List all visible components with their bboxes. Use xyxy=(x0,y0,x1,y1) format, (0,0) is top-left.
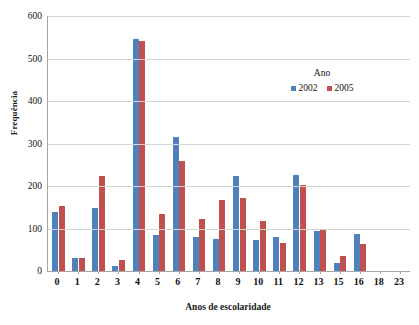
gridline xyxy=(48,59,410,60)
x-tick-mark xyxy=(159,271,160,274)
y-tick-label: 0 xyxy=(16,266,42,276)
x-tick-mark xyxy=(299,271,300,274)
bar-2005-5 xyxy=(159,214,165,271)
x-tick-mark xyxy=(380,271,381,274)
x-tick-label: 23 xyxy=(387,276,411,287)
x-tick-mark xyxy=(219,271,220,274)
bar-2002-9 xyxy=(233,176,239,271)
gridline xyxy=(48,101,410,102)
y-tick-label: 200 xyxy=(16,181,42,191)
legend-item-2005: 2005 xyxy=(327,83,354,93)
x-tick-mark xyxy=(139,271,140,274)
bar-2005-3 xyxy=(119,260,125,271)
bar-2002-2 xyxy=(92,208,98,271)
gridline xyxy=(48,144,410,145)
y-tick-label: 400 xyxy=(16,96,42,106)
legend: Ano 20022005 xyxy=(266,68,378,93)
x-tick-mark xyxy=(199,271,200,274)
bar-2005-0 xyxy=(59,206,65,271)
bar-2005-16 xyxy=(360,244,366,271)
bar-2002-5 xyxy=(153,235,159,271)
legend-items: 20022005 xyxy=(266,83,378,93)
bar-2005-8 xyxy=(219,200,225,271)
x-tick-mark xyxy=(239,271,240,274)
bar-2002-10 xyxy=(253,240,259,271)
bar-2005-4 xyxy=(139,41,145,271)
bar-2005-2 xyxy=(99,176,105,271)
y-axis-tick-labels: 0100200300400500600 xyxy=(16,10,42,275)
x-tick-mark xyxy=(78,271,79,274)
bar-2002-15 xyxy=(334,263,340,271)
bar-2005-1 xyxy=(79,258,85,271)
bar-2002-0 xyxy=(52,212,58,272)
bar-2005-13 xyxy=(320,229,326,271)
bar-2002-4 xyxy=(133,39,139,271)
x-tick-mark xyxy=(360,271,361,274)
bar-2005-11 xyxy=(280,243,286,271)
bar-2005-7 xyxy=(199,219,205,271)
x-tick-mark xyxy=(259,271,260,274)
legend-label: 2002 xyxy=(299,83,318,93)
bar-2005-9 xyxy=(240,198,246,271)
plot-area xyxy=(47,16,410,272)
gridline xyxy=(48,229,410,230)
bar-2002-6 xyxy=(173,137,179,271)
legend-title: Ano xyxy=(266,68,378,78)
x-tick-mark xyxy=(179,271,180,274)
bar-2002-12 xyxy=(293,175,299,271)
legend-swatch-icon xyxy=(327,86,332,91)
x-tick-mark xyxy=(340,271,341,274)
bar-2002-7 xyxy=(193,237,199,271)
y-tick-label: 300 xyxy=(16,139,42,149)
x-tick-mark xyxy=(118,271,119,274)
x-tick-mark xyxy=(400,271,401,274)
legend-swatch-icon xyxy=(291,86,296,91)
bar-2005-15 xyxy=(340,256,346,271)
y-tick-label: 600 xyxy=(16,11,42,21)
x-axis-tick-labels: 01234567891011121315161823 xyxy=(47,276,409,292)
x-axis-title: Anos de escolaridade xyxy=(47,302,409,312)
x-tick-mark xyxy=(98,271,99,274)
bar-2002-13 xyxy=(314,231,320,271)
y-tick-label: 500 xyxy=(16,54,42,64)
bar-2002-11 xyxy=(273,237,279,271)
x-tick-mark xyxy=(320,271,321,274)
gridline xyxy=(48,186,410,187)
bar-2002-8 xyxy=(213,239,219,271)
x-tick-mark xyxy=(58,271,59,274)
legend-label: 2005 xyxy=(335,83,354,93)
y-tick-label: 100 xyxy=(16,224,42,234)
bar-chart: Frequência 0100200300400500600 012345678… xyxy=(0,0,419,325)
x-tick-mark xyxy=(279,271,280,274)
legend-item-2002: 2002 xyxy=(291,83,318,93)
bar-2005-6 xyxy=(179,161,185,272)
bar-2002-16 xyxy=(354,234,360,271)
bar-2002-1 xyxy=(72,258,78,271)
gridline xyxy=(48,16,410,17)
